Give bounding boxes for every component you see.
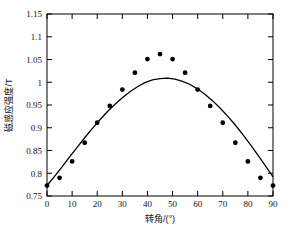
y-tick-label: 0.9 [31, 123, 43, 133]
x-tick-label: 70 [218, 199, 228, 209]
x-tick-label: 20 [93, 199, 103, 209]
y-tick-label: 1.15 [26, 9, 42, 19]
x-tick-label: 0 [45, 199, 50, 209]
scatter-plot: 0.750.80.850.90.9511.051.11.15 010203040… [0, 0, 291, 228]
y-tick-label: 0.95 [26, 100, 42, 110]
data-point [57, 175, 62, 180]
x-tick-label: 30 [118, 199, 128, 209]
data-point [132, 70, 137, 75]
data-point [183, 70, 188, 75]
chart-figure: 0.750.80.850.90.9511.051.11.15 010203040… [0, 0, 291, 228]
x-tick-label: 40 [143, 199, 153, 209]
y-tick-label: 1.1 [31, 32, 42, 42]
data-point [70, 159, 75, 164]
x-axis-title: 转角/(°) [145, 213, 175, 224]
x-tick-label: 90 [269, 199, 279, 209]
y-tick-label: 1 [38, 78, 43, 88]
y-tick-label: 0.75 [26, 191, 42, 201]
chart-background [0, 0, 291, 228]
data-point [258, 175, 263, 180]
y-tick-label: 1.05 [26, 55, 42, 65]
x-tick-label: 50 [168, 199, 178, 209]
data-point [233, 140, 238, 145]
data-point [170, 57, 175, 62]
data-point [95, 120, 100, 125]
data-point [271, 183, 276, 188]
data-point [107, 104, 112, 109]
data-point [120, 87, 125, 92]
data-point [208, 104, 213, 109]
data-point [245, 159, 250, 164]
x-tick-label: 60 [193, 199, 203, 209]
y-tick-label: 0.8 [31, 169, 43, 179]
data-point [158, 52, 163, 57]
data-point [145, 57, 150, 62]
data-point [220, 120, 225, 125]
x-tick-label: 10 [68, 199, 78, 209]
y-tick-label: 0.85 [26, 146, 42, 156]
x-tick-label: 80 [243, 199, 253, 209]
data-point [82, 140, 87, 145]
data-point [45, 183, 50, 188]
y-axis-title: 磁感应强度/T [3, 78, 14, 132]
data-point [195, 87, 200, 92]
